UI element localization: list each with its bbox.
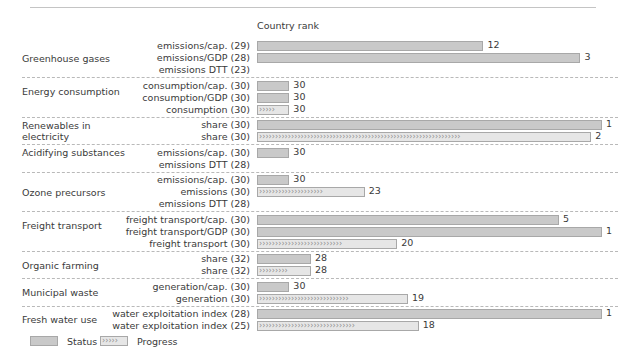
status-bar bbox=[257, 53, 580, 63]
row-label: freight transport (30) bbox=[149, 238, 250, 250]
chart-row: share (32)28 bbox=[0, 253, 626, 265]
chart-row: share (30)1 bbox=[0, 119, 626, 131]
row-label: share (32) bbox=[201, 265, 250, 277]
chart-row: share (32)›››››››››28 bbox=[0, 265, 626, 277]
bar-value-label: 3 bbox=[584, 52, 590, 62]
chevron-pattern-icon: ››››› bbox=[258, 106, 288, 115]
chart-row: share (30)››››››››››››››››››››››››››››››… bbox=[0, 131, 626, 143]
progress-bar: ››››››››› bbox=[257, 266, 311, 276]
chevron-pattern-icon: ›››››››››››››››››››››››››››› bbox=[258, 295, 407, 304]
bar-value-label: 30 bbox=[293, 281, 305, 291]
row-label: freight transport/cap. (30) bbox=[126, 214, 250, 226]
bar-value-label: 1 bbox=[606, 226, 612, 236]
bar-value-label: 19 bbox=[412, 293, 424, 303]
group-separator bbox=[22, 278, 618, 279]
chart-row: generation/cap. (30)30 bbox=[0, 281, 626, 293]
bar-wrapper: ›››››››››››››››››››››››››››› bbox=[257, 294, 408, 304]
group-separator bbox=[22, 77, 618, 78]
row-label: generation/cap. (30) bbox=[153, 281, 250, 293]
bar-wrapper: ››››› bbox=[257, 105, 289, 115]
progress-bar: ›››››››››››››››››››››››››››››› bbox=[257, 321, 419, 331]
row-label: emissions DTT (23) bbox=[159, 64, 250, 76]
chevron-pattern-icon: ›››››››››››››››››››› bbox=[258, 188, 364, 197]
bar-value-label: 5 bbox=[563, 214, 569, 224]
status-bar bbox=[257, 148, 289, 158]
group-separator bbox=[22, 172, 618, 173]
chart-row: emissions DTT (28) bbox=[0, 159, 626, 171]
bar-value-label: 23 bbox=[369, 186, 381, 196]
status-bar bbox=[257, 175, 289, 185]
status-bar bbox=[257, 120, 602, 130]
chevron-pattern-icon: ›››››››››››››››››››››››››› bbox=[258, 240, 396, 249]
bar-wrapper: ›››››››››››››››››››››››››››››› bbox=[257, 321, 419, 331]
chart-row: water exploitation index (28)1 bbox=[0, 308, 626, 320]
chart-row: emissions DTT (28) bbox=[0, 198, 626, 210]
country-rank-chart: Country rank Greenhouse gasesemissions/c… bbox=[0, 0, 626, 363]
bar-wrapper bbox=[257, 175, 289, 185]
status-bar bbox=[257, 41, 483, 51]
progress-bar: ›››››››››››››››››››› bbox=[257, 187, 365, 197]
group-separator bbox=[22, 117, 618, 118]
row-label: share (30) bbox=[201, 119, 250, 131]
row-label: share (30) bbox=[201, 131, 250, 143]
chart-row: generation (30)›››››››››››››››››››››››››… bbox=[0, 293, 626, 305]
progress-bar: ››››› bbox=[257, 105, 289, 115]
bar-wrapper bbox=[257, 53, 580, 63]
chart-row: emissions/cap. (29)12 bbox=[0, 40, 626, 52]
chart-row: emissions/GDP (28)3 bbox=[0, 52, 626, 64]
chart-row: consumption/GDP (30)30 bbox=[0, 92, 626, 104]
bar-wrapper bbox=[257, 41, 483, 51]
row-label: freight transport/GDP (30) bbox=[126, 226, 250, 238]
bar-value-label: 30 bbox=[293, 147, 305, 157]
bar-value-label: 28 bbox=[315, 253, 327, 263]
chart-row: emissions DTT (23) bbox=[0, 64, 626, 76]
row-label: generation (30) bbox=[176, 293, 250, 305]
bar-wrapper: ››››››››››››››››››››››››››››››››››››››››… bbox=[257, 132, 591, 142]
legend-label-status: Status bbox=[67, 336, 97, 347]
bar-value-label: 28 bbox=[315, 265, 327, 275]
chart-row: water exploitation index (25)›››››››››››… bbox=[0, 320, 626, 332]
chart-row: emissions (30)››››››››››››››››››››23 bbox=[0, 186, 626, 198]
status-swatch-icon bbox=[30, 336, 58, 346]
status-bar bbox=[257, 309, 602, 319]
bar-value-label: 12 bbox=[487, 40, 499, 50]
chart-row: freight transport (30)››››››››››››››››››… bbox=[0, 238, 626, 250]
row-label: emissions DTT (28) bbox=[159, 159, 250, 171]
bar-wrapper: ›››››››››››››››››››› bbox=[257, 187, 365, 197]
chart-rows-container: Greenhouse gasesemissions/cap. (29)12emi… bbox=[0, 0, 626, 363]
bar-value-label: 30 bbox=[293, 104, 305, 114]
bar-value-label: 30 bbox=[293, 174, 305, 184]
chart-row: freight transport/cap. (30)5 bbox=[0, 214, 626, 226]
bar-wrapper bbox=[257, 282, 289, 292]
chart-row: freight transport/GDP (30)1 bbox=[0, 226, 626, 238]
bar-wrapper bbox=[257, 148, 289, 158]
row-label: consumption (30) bbox=[166, 104, 250, 116]
bar-wrapper: ›››››››››››››››››››››››››› bbox=[257, 239, 397, 249]
legend-item-status: Status bbox=[30, 334, 97, 348]
group-separator bbox=[22, 306, 618, 307]
status-bar bbox=[257, 254, 311, 264]
chart-row: consumption (30)›››››30 bbox=[0, 104, 626, 116]
bar-wrapper bbox=[257, 215, 559, 225]
chevron-pattern-icon: ›››››››››››››››››››››››››››››› bbox=[258, 322, 418, 331]
legend-label-progress: Progress bbox=[137, 336, 178, 347]
bar-wrapper bbox=[257, 227, 602, 237]
row-label: emissions DTT (28) bbox=[159, 198, 250, 210]
status-bar bbox=[257, 282, 289, 292]
chart-row: consumption/cap. (30)30 bbox=[0, 80, 626, 92]
row-label: consumption/GDP (30) bbox=[142, 92, 250, 104]
status-bar bbox=[257, 215, 559, 225]
row-label: emissions/cap. (29) bbox=[157, 40, 250, 52]
row-label: emissions/cap. (30) bbox=[157, 174, 250, 186]
progress-bar: ››››››››››››››››››››››››››››››››››››››››… bbox=[257, 132, 591, 142]
progress-bar: ›››››››››››››››››››››››››››› bbox=[257, 294, 408, 304]
bar-wrapper bbox=[257, 120, 602, 130]
row-label: water exploitation index (28) bbox=[112, 308, 250, 320]
status-bar bbox=[257, 227, 602, 237]
row-label: water exploitation index (25) bbox=[112, 320, 250, 332]
legend-item-progress: ››››› Progress bbox=[100, 334, 178, 348]
bar-wrapper bbox=[257, 254, 311, 264]
chart-row: emissions/cap. (30)30 bbox=[0, 174, 626, 186]
bar-value-label: 30 bbox=[293, 92, 305, 102]
bar-value-label: 2 bbox=[595, 131, 601, 141]
